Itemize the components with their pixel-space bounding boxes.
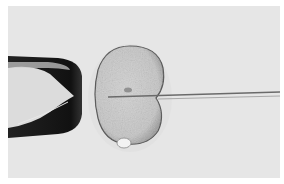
micrograph-photo bbox=[8, 6, 280, 178]
holding-pipette bbox=[8, 56, 82, 138]
polar-body bbox=[117, 138, 131, 148]
